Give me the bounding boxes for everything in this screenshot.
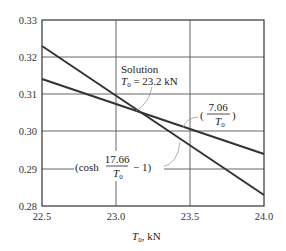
x-axis-label: T0, kN bbox=[132, 230, 161, 244]
x-axis-ticks: 22.5 23.0 23.5 24.0 bbox=[33, 211, 273, 222]
svg-text:17.66: 17.66 bbox=[105, 153, 130, 165]
svg-text:23.5: 23.5 bbox=[181, 211, 199, 222]
svg-text:0.33: 0.33 bbox=[19, 15, 37, 26]
s1-leader bbox=[162, 142, 180, 167]
svg-text:0.30: 0.30 bbox=[19, 126, 37, 137]
svg-text:24.0: 24.0 bbox=[255, 211, 273, 222]
y-axis-ticks: 0.33 0.32 0.31 0.30 0.29 0.28 bbox=[19, 15, 37, 212]
svg-text:23.0: 23.0 bbox=[107, 211, 125, 222]
svg-text:− 1): − 1) bbox=[133, 161, 151, 174]
svg-text:(cosh: (cosh bbox=[75, 161, 99, 174]
solution-leader bbox=[136, 86, 152, 111]
chart: 0.33 0.32 0.31 0.30 0.29 0.28 22.5 23.0 … bbox=[0, 0, 286, 251]
svg-text:22.5: 22.5 bbox=[33, 211, 51, 222]
svg-text:0.32: 0.32 bbox=[19, 52, 37, 63]
svg-text:7.06: 7.06 bbox=[208, 101, 228, 113]
svg-text:0.29: 0.29 bbox=[19, 164, 37, 175]
svg-text:): ) bbox=[232, 109, 236, 122]
svg-text:0.31: 0.31 bbox=[19, 89, 37, 100]
solution-label: Solution bbox=[121, 63, 159, 75]
svg-text:(: ( bbox=[200, 109, 204, 122]
